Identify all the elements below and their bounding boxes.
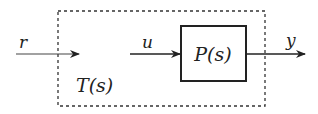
outer-block-label: T(s) bbox=[76, 74, 113, 96]
control-signal-label: u bbox=[142, 32, 153, 52]
plant-block-label: P(s) bbox=[193, 43, 231, 65]
output-signal-label: y bbox=[285, 30, 296, 50]
input-signal-label: r bbox=[19, 32, 28, 52]
block-diagram: r u P(s) y T(s) bbox=[0, 0, 318, 114]
